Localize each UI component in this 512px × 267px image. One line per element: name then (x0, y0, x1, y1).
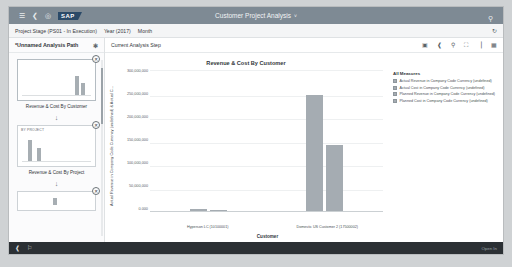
main-content: Current Analysis Step ▣ ❰ ⚲ ⛶ ▕ ▦ Revenu… (105, 38, 503, 242)
step-label-2: Revenue & Cost By Project (29, 170, 85, 175)
x-axis-block: Hyperson LC (10100001) Domestic US Custo… (105, 225, 387, 242)
mini-bar (28, 140, 32, 161)
y-axis-ticks: 300,000,000 250,000,000 200,000,000 150,… (116, 68, 150, 225)
application-window: ☰ ❮ ◎ SAP Customer Project Analysis ˅ ⚲ … (8, 6, 504, 255)
x-axis-title: Customer (148, 229, 387, 242)
bar-cost-1[interactable] (210, 210, 227, 211)
search-icon[interactable]: ⚲ (488, 15, 493, 22)
close-icon[interactable]: ✕ (92, 55, 100, 63)
legend-item-actual-revenue[interactable]: Actual Revenue in Company Code Currency … (393, 79, 499, 83)
mini-bar (75, 76, 79, 95)
bar-group-container (150, 68, 383, 211)
plot-canvas (150, 68, 383, 212)
bar-revenue-2[interactable] (306, 95, 323, 211)
y-tick: 50,000,000 (116, 185, 150, 189)
bar-cost-2[interactable] (326, 145, 343, 211)
current-step-toolbar: Current Analysis Step ▣ ❰ ⚲ ⛶ ▕ ▦ (105, 38, 503, 53)
legend-label: Planned Cost in Company Code Currency (u… (400, 99, 488, 103)
thumbnail-baseline (22, 161, 91, 162)
step-thumbnail-bars-2 (18, 135, 91, 161)
footer-right-label[interactable]: Open In (481, 246, 497, 251)
close-icon[interactable]: ✕ (92, 187, 100, 195)
filter-icon[interactable]: ❰ (437, 42, 442, 48)
legend-item-planned-revenue[interactable]: Planned Revenue in Company Code Currency… (393, 92, 499, 96)
legend-title: All Measures (393, 71, 499, 76)
shell-right-actions: ⚲ (488, 7, 499, 25)
body-container: *Unnamed Analysis Path ✻ ✕ (9, 38, 503, 242)
chevron-down-icon[interactable]: ˅ (294, 13, 297, 19)
analysis-step-1[interactable]: ✕ (17, 59, 96, 101)
menu-icon[interactable]: ☰ (19, 12, 25, 19)
filter-chip-month[interactable]: Month (138, 28, 152, 34)
shell-header: ☰ ❮ ◎ SAP Customer Project Analysis ˅ ⚲ (9, 7, 503, 24)
footer-bar: ❰ ⚐ Open In (9, 242, 503, 254)
search-icon[interactable]: ⚲ (451, 42, 455, 48)
step-thumbnail-2[interactable]: BY PROJECT (17, 125, 96, 167)
arrow-down-icon: ↓ (55, 180, 59, 187)
x-tick: Domestic US Customer 2 (17500002) (268, 225, 388, 229)
arrow-down-icon: ↓ (55, 114, 59, 121)
legend-item-actual-cost[interactable]: Actual Cost in Company Code Currency (un… (393, 86, 499, 90)
y-axis-title: Actual Revenue in Company Code Currency … (107, 68, 116, 225)
fullscreen-icon[interactable]: ⛶ (464, 42, 468, 48)
analysis-step-3[interactable]: ✕ (17, 191, 96, 211)
step-label-1: Revenue & Cost By Customer (26, 104, 87, 109)
filter-chip-list: Project Stage (PS01 - In Execution) Year… (15, 28, 152, 34)
legend-label: Actual Cost in Company Code Currency (un… (400, 86, 485, 90)
analysis-path-sidebar: *Unnamed Analysis Path ✻ ✕ (9, 38, 105, 242)
close-icon[interactable]: ✕ (92, 121, 100, 129)
step-thumbnail-header-1 (18, 60, 95, 62)
analysis-path-steps: ✕ Revenue & Cost By Customer ↓ BY PROJEC… (9, 53, 104, 242)
legend-swatch-icon (393, 86, 397, 90)
legend-swatch-icon (393, 99, 397, 103)
analysis-step-2[interactable]: BY PROJECT ✕ (17, 125, 96, 167)
plot-area: Actual Revenue in Company Code Currency … (105, 68, 387, 225)
analysis-path-header: *Unnamed Analysis Path ✻ (9, 38, 104, 53)
legend-item-planned-cost[interactable]: Planned Cost in Company Code Currency (u… (393, 99, 499, 103)
toolbar-icon-group: ▣ ❰ ⚲ ⛶ ▕ ▦ (422, 42, 497, 48)
bar-revenue-1[interactable] (190, 209, 207, 211)
table-icon[interactable]: ▦ (491, 42, 497, 48)
shell-title-block: Customer Project Analysis ˅ (9, 7, 503, 24)
y-tick: 150,000,000 (116, 139, 150, 143)
mini-bar (81, 83, 85, 95)
refresh-icon[interactable]: ↻ (492, 27, 497, 34)
y-tick: 100,000,000 (116, 162, 150, 166)
legend-label: Planned Revenue in Company Code Currency… (400, 92, 496, 96)
step-thumbnail-bars-1 (18, 69, 91, 95)
step-thumbnail-bars-3 (18, 194, 91, 205)
filter-icon[interactable]: ❰ (15, 245, 20, 251)
chart-column: Revenue & Cost By Customer Actual Revenu… (105, 57, 387, 242)
filter-chip-project-stage[interactable]: Project Stage (PS01 - In Execution) (15, 28, 97, 34)
x-axis-ticks: Hyperson LC (10100001) Domestic US Custo… (148, 225, 387, 229)
bar-category-2 (267, 68, 384, 211)
bar-category-1 (150, 68, 267, 211)
mini-bar (37, 148, 41, 161)
step-thumbnail-header-2: BY PROJECT (18, 126, 95, 132)
book-icon[interactable]: ▣ (422, 42, 428, 48)
filter-chip-year[interactable]: Year (2017) (104, 28, 131, 34)
home-icon[interactable]: ◎ (45, 12, 51, 19)
chart-container: Revenue & Cost By Customer Actual Revenu… (105, 53, 503, 242)
sidebar-scrollbar-thumb[interactable] (101, 68, 103, 124)
legend-panel: All Measures Actual Revenue in Company C… (387, 57, 503, 242)
mini-bar (53, 198, 57, 205)
legend-label: Actual Revenue in Company Code Currency … (400, 79, 492, 83)
x-tick: Hyperson LC (10100001) (148, 225, 268, 229)
analysis-path-title: *Unnamed Analysis Path (15, 42, 78, 48)
flag-icon[interactable]: ⚐ (27, 245, 32, 251)
chart-icon[interactable]: ▕ (477, 42, 482, 48)
step-thumbnail-1[interactable] (17, 59, 96, 101)
current-step-label: Current Analysis Step (111, 42, 161, 48)
sap-logo[interactable]: SAP (58, 12, 78, 20)
step-thumbnail-3[interactable] (17, 191, 96, 211)
app-title[interactable]: Customer Project Analysis (215, 12, 291, 19)
back-icon[interactable]: ❮ (32, 12, 38, 19)
y-tick: 250,000,000 (116, 93, 150, 97)
pin-icon[interactable]: ✻ (93, 42, 98, 49)
thumbnail-baseline (22, 95, 91, 96)
y-tick: 300,000,000 (116, 70, 150, 74)
legend-swatch-icon (393, 79, 397, 83)
y-tick: 0.000 (116, 208, 150, 212)
legend-swatch-icon (393, 92, 397, 96)
